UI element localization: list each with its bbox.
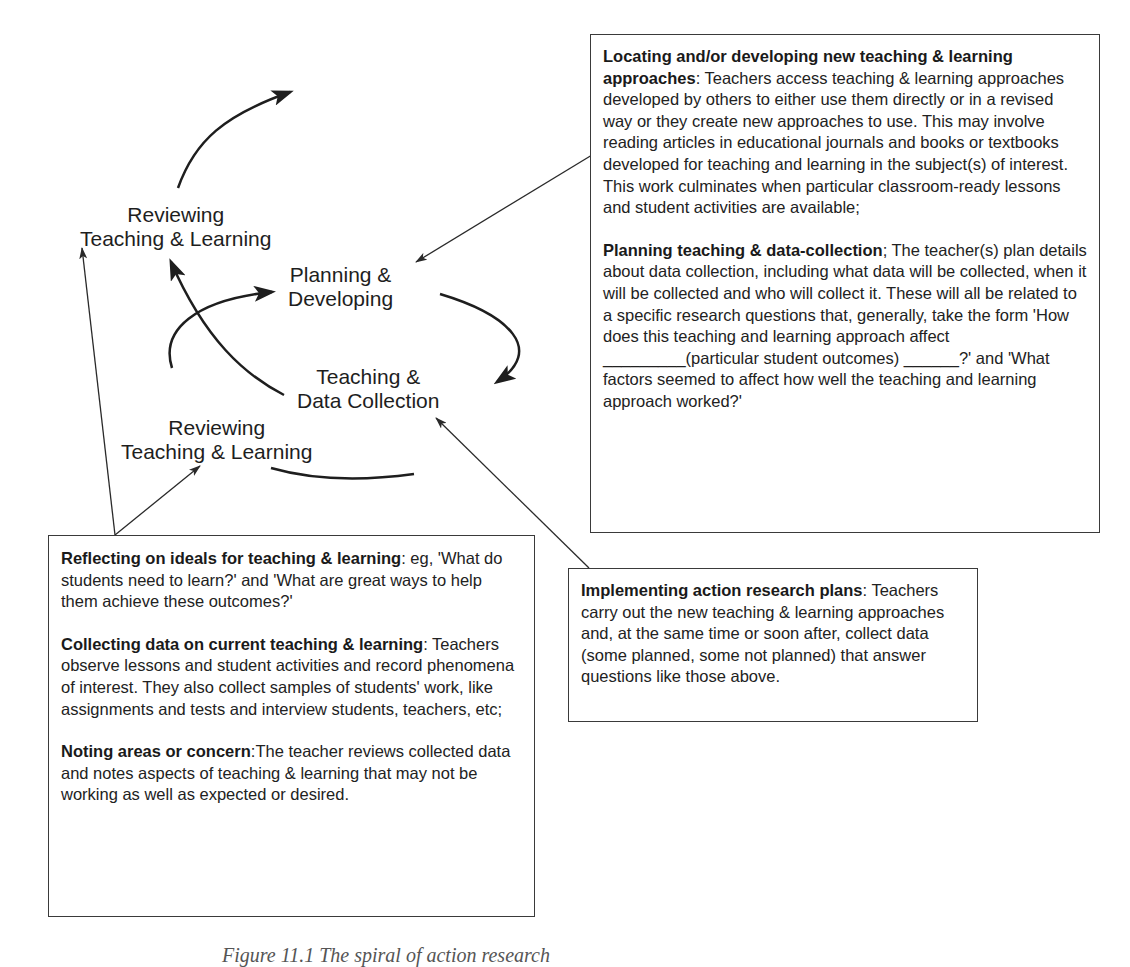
- label-planning-line1: Planning &: [288, 263, 393, 287]
- pointer-to-reviewing-top: [82, 248, 115, 535]
- box-section: Reflecting on ideals for teaching & lear…: [61, 548, 522, 613]
- figure-caption: Figure 11.1 The spiral of action researc…: [222, 944, 550, 967]
- box-section: Collecting data on current teaching & le…: [61, 634, 522, 720]
- reviewing-description-box: Reflecting on ideals for teaching & lear…: [48, 535, 535, 917]
- label-reviewing-top-line1: Reviewing: [80, 203, 271, 227]
- spiral-arc-bottom: [271, 468, 414, 479]
- box-section: Noting areas or concern:The teacher revi…: [61, 741, 522, 806]
- spiral-arrow-planning-to-teaching: [440, 294, 519, 382]
- label-teaching-line2: Data Collection: [297, 389, 439, 413]
- label-planning-developing: Planning & Developing: [288, 263, 393, 311]
- label-teaching-line1: Teaching &: [297, 365, 439, 389]
- box-section: Planning teaching & data-collection; The…: [603, 240, 1087, 413]
- planning-description-box: Locating and/or developing new teaching …: [590, 34, 1100, 533]
- spiral-arrow-teaching-to-review: [171, 262, 284, 395]
- section-heading: Noting areas or concern: [61, 742, 251, 760]
- section-body: Teachers access teaching & learning appr…: [603, 69, 1068, 217]
- label-teaching-data-collection: Teaching & Data Collection: [297, 365, 439, 413]
- implementing-description-box: Implementing action research plans: Teac…: [568, 568, 978, 722]
- box-section: Locating and/or developing new teaching …: [603, 46, 1087, 219]
- label-reviewing-top-line2: Teaching & Learning: [80, 227, 271, 251]
- label-reviewing-bottom-line1: Reviewing: [121, 416, 312, 440]
- pointer-to-reviewing-bottom: [115, 466, 200, 535]
- label-reviewing-top: Reviewing Teaching & Learning: [80, 203, 271, 251]
- spiral-arrow-review-to-planning: [170, 292, 272, 368]
- label-reviewing-bottom-line2: Teaching & Learning: [121, 440, 312, 464]
- label-reviewing-bottom: Reviewing Teaching & Learning: [121, 416, 312, 464]
- pointer-to-planning: [416, 155, 592, 262]
- box-section: Implementing action research plans: Teac…: [581, 580, 965, 688]
- section-heading: Collecting data on current teaching & le…: [61, 635, 423, 653]
- label-planning-line2: Developing: [288, 287, 393, 311]
- section-heading: Implementing action research plans: [581, 581, 863, 599]
- section-heading: Reflecting on ideals for teaching & lear…: [61, 549, 401, 567]
- section-body: The teacher(s) plan details about data c…: [603, 241, 1087, 410]
- spiral-arrow-up-next-cycle: [178, 92, 290, 188]
- section-heading: Planning teaching & data-collection: [603, 241, 883, 259]
